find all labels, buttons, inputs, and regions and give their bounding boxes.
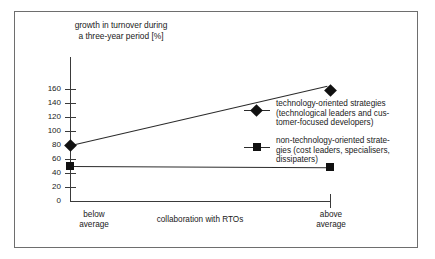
y-tick-label-120-wrap: 120: [31, 113, 61, 121]
x-axis-title: collaboration with RTOs: [135, 215, 265, 225]
y-tick-label-120: 120: [35, 113, 61, 121]
x-label-above-average: above average: [305, 210, 357, 230]
data-point-nontech-below-average: [66, 162, 74, 170]
y-tick-label-140-wrap: 140: [31, 99, 61, 107]
x-label-below-average: below average: [68, 210, 120, 230]
y-tick-label-100-wrap: 100: [31, 127, 61, 135]
y-tick-label-20: 20: [35, 183, 61, 191]
y-tick-label-40: 40: [35, 169, 61, 177]
y-tick-label-160: 160: [35, 85, 61, 93]
y-tick-label-60-wrap: 60: [31, 155, 61, 163]
chart-figure: growth in turnover during a three-year p…: [0, 0, 435, 259]
y-axis-title: growth in turnover during a three-year p…: [26, 20, 216, 42]
y-tick-140: [65, 103, 76, 104]
y-tick-label-40-wrap: 40: [31, 169, 61, 177]
y-tick-label-140: 140: [35, 99, 61, 107]
y-tick-label-0-wrap: 0: [31, 197, 61, 205]
y-tick-40: [65, 173, 76, 174]
y-tick-label-20-wrap: 20: [31, 183, 61, 191]
y-tick-label-160-wrap: 160: [31, 85, 61, 93]
y-tick-120: [65, 117, 76, 118]
y-tick-label-100: 100: [35, 127, 61, 135]
y-tick-label-60: 60: [35, 155, 61, 163]
y-tick-100: [65, 131, 76, 132]
y-tick-label-0: 0: [35, 197, 61, 205]
y-tick-label-80: 80: [35, 141, 61, 149]
y-tick-20: [65, 187, 76, 188]
y-tick-160: [65, 89, 76, 90]
x-axis-line: [70, 201, 331, 202]
legend-label-technology-oriented: technology-oriented strategies (technolo…: [276, 99, 435, 128]
y-axis-line: [70, 57, 71, 202]
legend-marker-square-icon: [253, 143, 261, 151]
legend-label-non-technology-oriented: non-technology-oriented strate- gies (co…: [276, 136, 435, 165]
x-axis-end-tick: [330, 194, 331, 208]
y-tick-60: [65, 159, 76, 160]
y-tick-label-80-wrap: 80: [31, 141, 61, 149]
